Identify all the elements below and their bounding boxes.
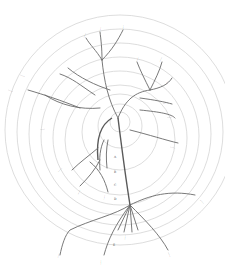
taxon-label: ……	[8, 88, 14, 93]
taxon-label: ……	[158, 56, 163, 62]
taxon-label: ……	[98, 26, 102, 32]
taxon-label: ……	[40, 127, 46, 131]
taxon-label: ……	[135, 56, 139, 62]
phylogenetic-tree-diagram: …… …… …… …… …… …… …… …… …… …… …… …… …… ……	[0, 0, 225, 278]
trunk-marker: D	[114, 197, 117, 201]
taxon-label: ……	[162, 100, 168, 105]
taxon-label: ……	[199, 199, 205, 205]
taxon-label: ……	[170, 145, 176, 149]
trunk-marker: C	[114, 183, 117, 187]
trunk-marker: B	[114, 170, 117, 174]
leaf-labels: …… …… …… …… …… …… …… …… …… …… …… …… …… ……	[8, 24, 206, 265]
taxon-label: ……	[102, 194, 106, 200]
taxon-label: ……	[165, 79, 171, 85]
taxon-label: ……	[167, 251, 172, 257]
taxon-label: ……	[82, 32, 87, 38]
concentric-rings	[5, 15, 225, 245]
taxon-label: ……	[99, 259, 102, 265]
taxon-label: ……	[123, 234, 126, 240]
taxon-label: ……	[121, 24, 124, 30]
taxon-label: ……	[167, 115, 173, 119]
trunk-markers: A B C D E	[113, 155, 117, 247]
trunk-marker: E	[113, 243, 115, 247]
taxon-label: ……	[56, 252, 60, 258]
taxon-label: ……	[20, 73, 26, 78]
trunk-marker: A	[113, 155, 117, 159]
